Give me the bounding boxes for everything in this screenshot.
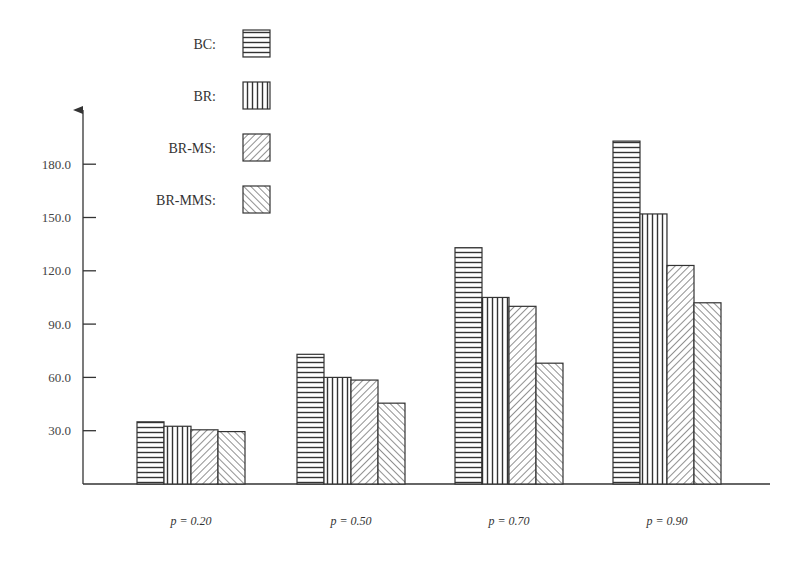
legend-item: BR-MMS: (156, 186, 270, 213)
bar-bc (613, 141, 640, 484)
bar-br-ms (509, 306, 536, 484)
legend-swatch-icon (243, 186, 270, 213)
bar-group (455, 248, 563, 484)
legend-item: BR: (193, 82, 270, 109)
legend-label: BC: (193, 37, 216, 52)
bar-br-ms (667, 265, 694, 484)
bar-group (137, 422, 245, 484)
bar-br-mms (218, 432, 245, 484)
legend-item: BC: (193, 30, 270, 57)
bar-br (164, 426, 191, 484)
category-label: p = 0.90 (645, 514, 687, 528)
legend-label: BR: (193, 89, 216, 104)
bar-chart: BC:BR:BR-MS:BR-MMS: 30.060.090.0120.0150… (0, 0, 801, 566)
y-axis: 30.060.090.0120.0150.0180.0 (42, 110, 96, 484)
bar-group (613, 141, 721, 484)
legend-label: BR-MMS: (156, 193, 216, 208)
y-tick-label: 30.0 (48, 423, 71, 438)
bar-group (297, 354, 405, 484)
y-tick-label: 180.0 (42, 157, 71, 172)
bar-br (640, 214, 667, 484)
legend-swatch-icon (243, 82, 270, 109)
y-tick-label: 150.0 (42, 210, 71, 225)
bar-br (324, 377, 351, 484)
bars (137, 141, 721, 484)
legend-swatch-icon (243, 134, 270, 161)
legend: BC:BR:BR-MS:BR-MMS: (156, 30, 270, 213)
y-tick-label: 60.0 (48, 370, 71, 385)
bar-bc (297, 354, 324, 484)
category-labels: p = 0.20p = 0.50p = 0.70p = 0.90 (169, 514, 687, 528)
y-tick-label: 90.0 (48, 317, 71, 332)
bar-br (482, 297, 509, 484)
bar-br-mms (536, 363, 563, 484)
category-label: p = 0.20 (169, 514, 211, 528)
bar-br-ms (351, 380, 378, 484)
bar-bc (455, 248, 482, 484)
bar-br-mms (694, 303, 721, 484)
category-label: p = 0.70 (487, 514, 529, 528)
legend-swatch-icon (243, 30, 270, 57)
y-tick-label: 120.0 (42, 263, 71, 278)
bar-bc (137, 422, 164, 484)
bar-br-ms (191, 430, 218, 484)
legend-label: BR-MS: (169, 141, 216, 156)
legend-item: BR-MS: (169, 134, 270, 161)
category-label: p = 0.50 (329, 514, 371, 528)
bar-br-mms (378, 403, 405, 484)
